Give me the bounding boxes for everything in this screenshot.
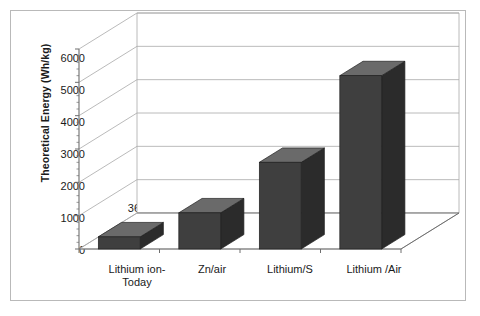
chart-frame: Theoretical Energy (Wh/kg) 0 1000 2000 3… — [10, 10, 466, 301]
bar-front-face-2 — [259, 162, 301, 249]
bar-side-face-3 — [382, 61, 405, 249]
gridline-depth-3000 — [79, 113, 137, 149]
chart-root: Theoretical Energy (Wh/kg) 0 1000 2000 3… — [0, 0, 480, 316]
gridline-depth-1000 — [79, 180, 137, 216]
bar-front-face-1 — [179, 213, 221, 249]
gridline-depth-2000 — [79, 146, 137, 182]
gridline-depth-5000 — [79, 46, 137, 82]
bar-front-face-0 — [98, 237, 140, 249]
bar-front-face-3 — [340, 76, 382, 249]
chart-plot-svg — [11, 11, 467, 302]
bar-column-3[interactable] — [340, 61, 405, 249]
bar-column-2[interactable] — [259, 148, 324, 249]
gridline-depth-4000 — [79, 80, 137, 116]
bar-side-face-2 — [301, 148, 324, 249]
gridline-depth-6000 — [79, 13, 137, 49]
